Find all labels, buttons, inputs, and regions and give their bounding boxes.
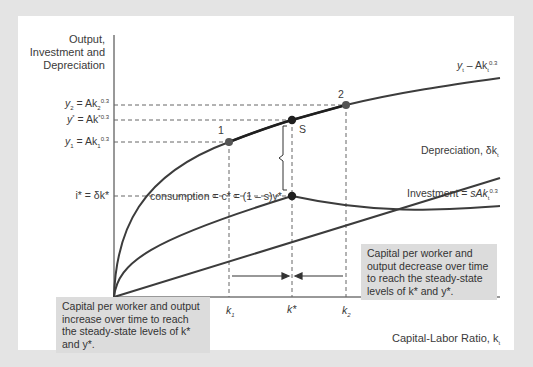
point-1-label: 1 <box>218 124 224 136</box>
consumption-brace <box>279 126 287 190</box>
point-s-label: S <box>299 123 306 135</box>
tick-kstar: k* <box>287 303 296 315</box>
depreciation-label: Depreciation, δkt <box>421 144 499 159</box>
y-axis-title-line: Depreciation <box>30 59 105 72</box>
y-axis-title-line: Investment and <box>30 46 105 59</box>
y-axis-title-line: Output, <box>30 33 105 46</box>
consumption-label: consumption = c* = (1 – s)y* <box>150 190 282 202</box>
label-ystar: y* = Ak*0.3 <box>67 113 109 125</box>
y-axis-title: Output, Investment and Depreciation <box>30 33 105 72</box>
point-s <box>288 116 296 124</box>
note-decrease: Capital per worker and output decrease o… <box>361 244 497 300</box>
output-curve-path-1-2 <box>229 105 346 142</box>
x-axis-title: Capital-Labor Ratio, kt <box>392 332 500 347</box>
note-increase: Capital per worker and output increase o… <box>56 297 210 353</box>
point-2 <box>342 101 350 109</box>
point-2-label: 2 <box>338 88 344 100</box>
tick-k1: k1 <box>226 304 235 319</box>
tick-k2: k2 <box>342 304 351 319</box>
output-curve-label: yt – Akt0.3 <box>457 59 497 74</box>
point-1 <box>225 138 233 146</box>
point-steady-investment <box>288 192 296 200</box>
label-istar: i* = δk* <box>75 189 109 201</box>
label-y1: y1 = Ak10.3 <box>65 135 109 150</box>
label-y2: y2 = Ak20.3 <box>65 97 109 112</box>
investment-label: Investment = sAkt0.3 <box>407 187 498 202</box>
